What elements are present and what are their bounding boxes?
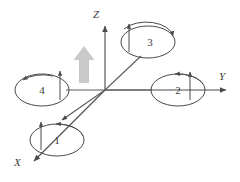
- axes-group: Z Y X: [13, 8, 227, 168]
- rotor-3-label: 3: [147, 36, 153, 48]
- rotor-2-label: 2: [175, 84, 181, 96]
- rotor-4-label: 4: [39, 84, 45, 96]
- rotor-3: 3: [121, 22, 175, 58]
- arms-group: [62, 56, 152, 120]
- rotor-2: 2: [151, 72, 205, 106]
- z-axis-label: Z: [93, 8, 100, 20]
- rotor-2-spin-arrow: [175, 74, 203, 84]
- y-axis-label: Y: [219, 70, 227, 82]
- rotor-4-spin-arrow: [23, 75, 53, 80]
- net-thrust-arrow-shape: [74, 46, 95, 83]
- arm-to-rotor-3: [105, 56, 141, 90]
- net-thrust-arrow: [74, 46, 95, 83]
- quadrotor-diagram-canvas: Z Y X 1 2: [0, 0, 240, 182]
- rotor-1: 1: [30, 122, 84, 156]
- x-axis-label: X: [13, 156, 22, 168]
- rotor-4: 4: [15, 71, 69, 106]
- rotor-1-label: 1: [54, 134, 60, 146]
- quadrotor-diagram-figure: Z Y X 1 2: [0, 0, 240, 182]
